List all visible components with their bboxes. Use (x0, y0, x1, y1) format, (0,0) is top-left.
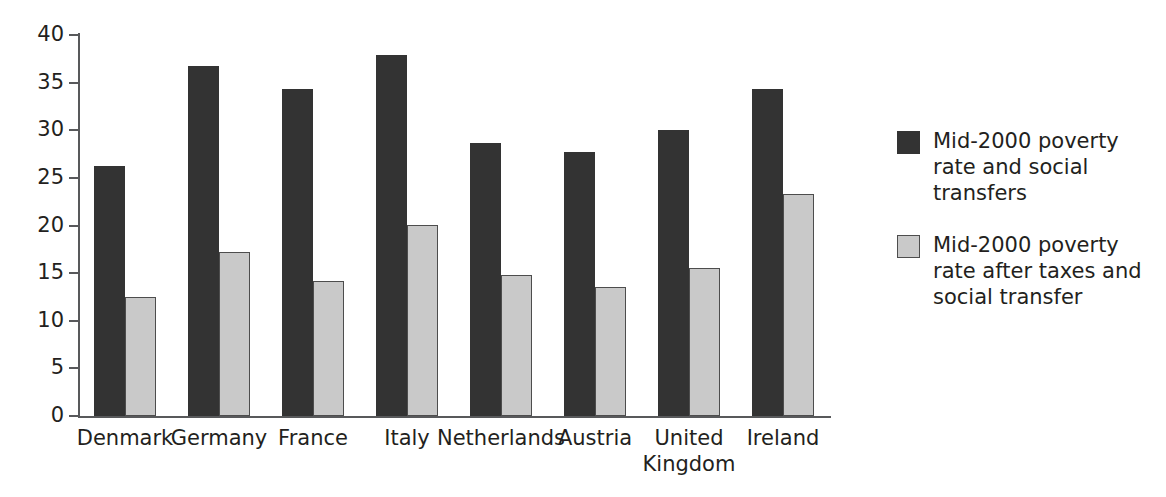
bar-chart-figure: 0510152025303540 DenmarkGermanyFranceIta… (0, 0, 1166, 497)
legend-entry-1: Mid-2000 poverty rate and social transfe… (897, 128, 1159, 206)
legend-entry-2: Mid-2000 poverty rate after taxes and so… (897, 232, 1159, 310)
y-axis-tick-label: 20 (20, 215, 64, 236)
bar-italy-series-1 (376, 55, 407, 416)
y-axis-tick-label: 30 (20, 119, 64, 140)
bar-united-kingdom-series-2 (689, 268, 720, 416)
y-axis-tick-label: 35 (20, 72, 64, 93)
bar-denmark-series-2 (125, 297, 156, 416)
bar-austria-series-1 (564, 152, 595, 416)
bar-austria-series-2 (595, 287, 626, 416)
bar-italy-series-2 (407, 225, 438, 416)
y-axis-tick (69, 272, 78, 274)
y-axis-tick-label: 15 (20, 262, 64, 283)
y-axis-tick-label: 5 (20, 357, 64, 378)
x-axis-label-ireland: Ireland (703, 425, 863, 451)
bar-france-series-2 (313, 281, 344, 416)
y-axis-tick (69, 82, 78, 84)
bar-netherlands-series-2 (501, 275, 532, 416)
y-axis-tick (69, 225, 78, 227)
x-axis-line (78, 416, 831, 418)
y-axis-tick (69, 177, 78, 179)
bar-ireland-series-2 (783, 194, 814, 416)
y-axis-tick-label: 40 (20, 24, 64, 45)
legend-label: Mid-2000 poverty rate after taxes and so… (933, 232, 1159, 310)
plot-area (78, 35, 830, 416)
legend-swatch-icon-light (897, 235, 920, 258)
y-axis-tick (69, 34, 78, 36)
bar-germany-series-2 (219, 252, 250, 416)
bar-ireland-series-1 (752, 89, 783, 416)
bar-france-series-1 (282, 89, 313, 416)
bar-united-kingdom-series-1 (658, 130, 689, 416)
bar-netherlands-series-1 (470, 143, 501, 416)
legend-label: Mid-2000 poverty rate and social transfe… (933, 128, 1159, 206)
y-axis-tick-label: 25 (20, 167, 64, 188)
y-axis-tick (69, 415, 78, 417)
bar-denmark-series-1 (94, 166, 125, 416)
y-axis-tick-label: 0 (20, 405, 64, 426)
bar-germany-series-1 (188, 66, 219, 416)
y-axis-tick (69, 320, 78, 322)
y-axis-tick-label: 10 (20, 310, 64, 331)
legend-swatch-icon-dark (897, 131, 920, 154)
chart-legend: Mid-2000 poverty rate and social transfe… (897, 128, 1159, 336)
y-axis-tick (69, 129, 78, 131)
y-axis-tick (69, 367, 78, 369)
